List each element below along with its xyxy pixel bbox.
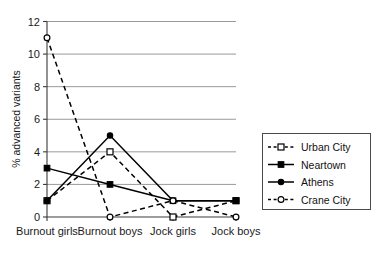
gridlines-group [47,22,236,185]
data-point-marker-legend-0 [278,144,284,150]
y-tick-label: 2 [34,178,40,190]
legend-label: Athens [301,176,334,188]
category-label: Jock girls [150,225,196,237]
category-label: Jock boys [212,225,261,237]
series-group [44,35,239,220]
legend-label: Crane City [301,194,351,206]
y-tick-label: 12 [28,16,40,28]
data-point-marker-0-2 [170,214,176,220]
series-line [47,136,236,201]
data-point-marker-legend-1 [278,162,284,168]
category-labels-group: Burnout girlsBurnout boysJock girlsJock … [16,225,261,237]
y-tick-marks-group [43,22,47,218]
y-tick-label: 10 [28,48,40,60]
y-tick-label: 8 [34,81,40,93]
y-axis-title: % advanced variants [10,70,22,167]
data-point-marker-3-1 [107,214,113,220]
data-point-marker-legend-2 [278,179,283,184]
data-point-marker-2-1 [107,133,112,138]
series-line [47,38,236,217]
data-point-marker-3-2 [170,198,176,204]
category-label: Burnout boys [78,225,143,237]
line-chart: 024681012 Burnout girlsBurnout boysJock … [0,0,381,262]
y-tick-label: 0 [34,211,40,223]
y-tick-label: 6 [34,113,40,125]
data-point-marker-0-1 [107,149,113,155]
data-point-marker-2-3 [233,198,238,203]
legend-label: Neartown [301,159,346,171]
data-point-marker-legend-3 [278,197,284,203]
category-label: Burnout girls [16,225,78,237]
data-point-marker-1-1 [107,182,113,188]
y-tick-labels-group: 024681012 [28,16,40,224]
data-point-marker-3-0 [44,35,50,41]
y-tick-label: 4 [34,146,40,158]
chart-legend: Urban CityNeartownAthensCrane City [263,134,371,210]
data-point-marker-1-0 [44,165,50,171]
data-point-marker-3-3 [233,214,239,220]
legend-label: Urban City [301,141,351,153]
x-tick-marks-group [47,217,236,221]
chart-canvas: 024681012 Burnout girlsBurnout boysJock … [0,0,381,262]
data-point-marker-2-0 [44,198,49,203]
